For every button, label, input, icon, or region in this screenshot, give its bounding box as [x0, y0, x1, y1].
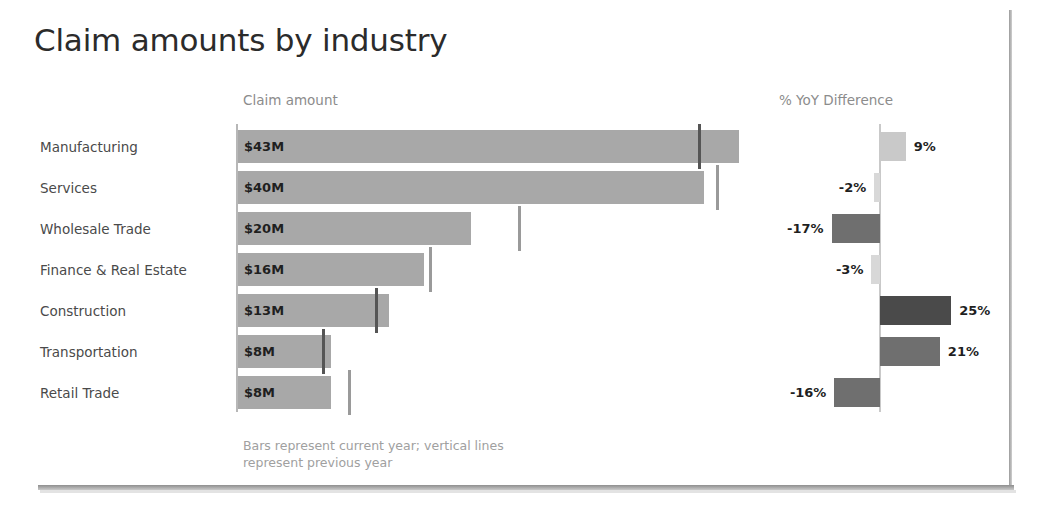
claim-amount-value: $43M — [244, 130, 284, 163]
previous-year-marker — [375, 288, 378, 333]
yoy-difference-bar — [880, 296, 951, 325]
yoy-difference-bar — [874, 173, 880, 202]
yoy-difference-label: -3% — [0, 255, 863, 284]
claim-amount-value: $13M — [244, 294, 284, 327]
chart-footnote: Bars represent current year; vertical li… — [243, 437, 573, 471]
yoy-difference-label: -2% — [0, 173, 866, 202]
yoy-difference-bar — [834, 378, 880, 407]
footnote-line-1: Bars represent current year; vertical li… — [243, 437, 573, 454]
category-label: Construction — [40, 303, 240, 319]
yoy-difference-bar — [880, 337, 940, 366]
yoy-difference-bar — [880, 132, 906, 161]
footnote-line-2: represent previous year — [243, 454, 573, 471]
yoy-difference-label: -17% — [0, 214, 824, 243]
yoy-difference-label: 21% — [948, 337, 979, 366]
previous-year-marker — [322, 329, 325, 374]
yoy-difference-bar — [832, 214, 880, 243]
claim-amount-bar — [238, 130, 739, 163]
claim-amount-value: $8M — [244, 335, 275, 368]
yoy-difference-label: 9% — [914, 132, 936, 161]
yoy-difference-bar — [871, 255, 880, 284]
category-label: Manufacturing — [40, 139, 240, 155]
slide-canvas: Claim amounts by industry Claim amount %… — [0, 0, 1039, 520]
yoy-difference-label: 25% — [959, 296, 990, 325]
category-label: Transportation — [40, 344, 240, 360]
previous-year-marker — [698, 124, 701, 169]
yoy-difference-label: -16% — [0, 378, 826, 407]
